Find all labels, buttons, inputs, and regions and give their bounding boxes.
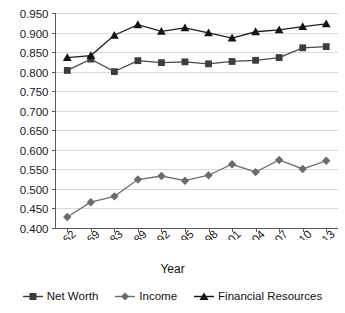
x-tick-label: 1983 (98, 228, 125, 240)
x-tick-label: 1995 (169, 228, 196, 240)
x-tick-label: 2013 (310, 228, 337, 240)
data-point (110, 192, 118, 200)
data-point (298, 165, 306, 173)
y-tick-label: 0.800 (20, 67, 49, 79)
legend-label-income: Income (139, 290, 177, 302)
series-income (63, 156, 330, 221)
data-point (63, 213, 71, 221)
data-point (181, 23, 190, 31)
data-point (64, 67, 71, 74)
data-point (252, 57, 259, 64)
data-point (133, 20, 142, 28)
x-tick-label: 1969 (75, 228, 102, 240)
chart-svg: 0.9500.9000.8500.8000.7500.7000.6500.600… (0, 0, 345, 240)
legend-swatch-diamond (115, 291, 135, 302)
y-tick-label: 0.900 (20, 28, 49, 40)
y-tick-label: 0.650 (20, 125, 49, 137)
data-point (228, 160, 236, 168)
legend-swatch-triangle (194, 291, 214, 302)
x-tick-label: 2004 (240, 227, 267, 240)
plot-area: 0.9500.9000.8500.8000.7500.7000.6500.600… (0, 0, 345, 240)
data-point (229, 58, 236, 65)
data-point (157, 172, 165, 180)
data-point (299, 44, 306, 51)
y-axis-tick-labels: 0.9500.9000.8500.8000.7500.7000.6500.600… (20, 8, 49, 235)
x-tick-label: 1992 (145, 228, 172, 240)
y-tick-label: 0.450 (20, 203, 49, 215)
legend-item-financial-resources[interactable]: Financial Resources (194, 290, 322, 302)
x-axis-title: Year (0, 262, 345, 276)
chart-container: 0.9500.9000.8500.8000.7500.7000.6500.600… (0, 0, 345, 313)
series-financial-resources (63, 20, 331, 61)
y-tick-label: 0.700 (20, 106, 49, 118)
x-tick-label: 1989 (122, 228, 149, 240)
series-polyline (67, 47, 326, 72)
x-tick-label: 2001 (216, 228, 243, 240)
x-axis-tick-labels: 1962196919831989199219951998200120042007… (51, 227, 337, 240)
data-point (205, 60, 212, 67)
series-lines (63, 20, 331, 222)
data-point (323, 43, 330, 50)
data-point (322, 20, 331, 28)
data-point (322, 157, 330, 165)
y-tick-label: 0.850 (20, 47, 49, 59)
data-point (110, 31, 119, 39)
data-point (204, 171, 212, 179)
y-tick-label: 0.500 (20, 184, 49, 196)
legend-swatch-square (23, 291, 43, 302)
x-tick-label: 1962 (51, 228, 78, 240)
legend-label-net-worth: Net Worth (47, 290, 99, 302)
chart-legend: Net Worth Income Financial Resources (0, 290, 345, 302)
data-point (276, 54, 283, 61)
data-point (181, 177, 189, 185)
data-point (158, 59, 165, 66)
data-point (182, 58, 189, 65)
x-tick-label: 2007 (263, 228, 290, 240)
x-tick-label: 2010 (287, 228, 314, 240)
y-tick-label: 0.750 (20, 86, 49, 98)
gridlines (56, 14, 339, 229)
y-tick-label: 0.400 (20, 223, 49, 235)
data-point (134, 57, 141, 64)
legend-item-income[interactable]: Income (115, 290, 177, 302)
data-point (275, 156, 283, 164)
data-point (87, 198, 95, 206)
y-tick-label: 0.550 (20, 164, 49, 176)
y-tick-label: 0.600 (20, 145, 49, 157)
data-point (134, 175, 142, 183)
legend-item-net-worth[interactable]: Net Worth (23, 290, 99, 302)
legend-label-financial-resources: Financial Resources (218, 290, 322, 302)
x-tick-label: 1998 (193, 228, 220, 240)
data-point (111, 68, 118, 75)
y-tick-label: 0.950 (20, 8, 49, 20)
series-net-worth (64, 43, 330, 75)
